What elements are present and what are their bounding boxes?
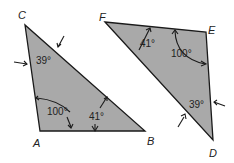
- vertex-label-c: C: [18, 9, 26, 21]
- angle-label-b: 41°: [89, 111, 104, 122]
- vertex-label-e: E: [208, 24, 216, 36]
- angle-label-c: 39°: [36, 55, 51, 66]
- angle-label-e: 100°: [171, 48, 192, 59]
- angle-label-f: 41°: [140, 38, 155, 49]
- angle-label-d: 39°: [189, 99, 204, 110]
- congruent-triangles-figure: C A B 39° 100° 41° F E D 41° 100° 39°: [0, 0, 234, 163]
- triangles-diagram: C A B 39° 100° 41° F E D 41° 100° 39°: [0, 0, 234, 163]
- vertex-label-b: B: [147, 135, 154, 147]
- vertex-label-d: D: [209, 147, 217, 159]
- angle-label-a: 100°: [47, 106, 68, 117]
- vertex-label-a: A: [32, 137, 40, 149]
- vertex-label-f: F: [99, 11, 107, 23]
